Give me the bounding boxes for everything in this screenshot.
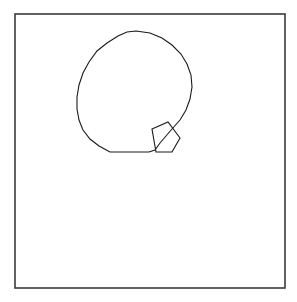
outer-border-rectangle <box>15 14 285 288</box>
large-polygon <box>77 31 192 152</box>
drawing-canvas <box>0 0 297 302</box>
figure-svg <box>0 0 297 302</box>
